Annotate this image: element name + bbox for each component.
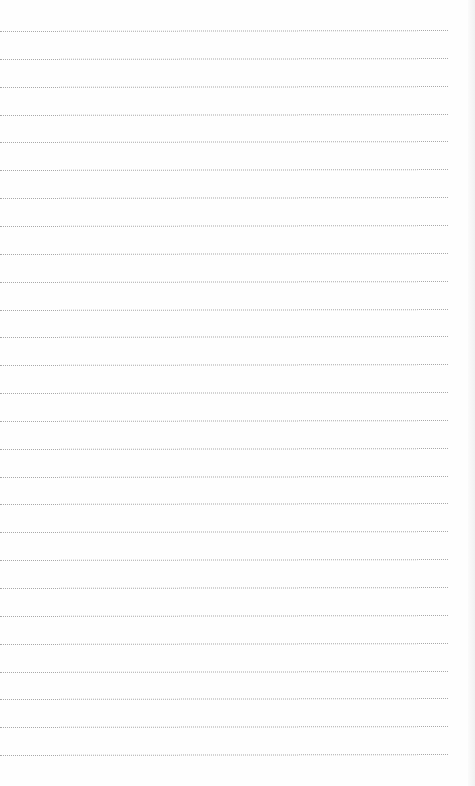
ruled-line — [0, 643, 448, 645]
page-edge-shadow — [468, 0, 475, 786]
ruled-line — [0, 531, 448, 533]
ruled-line — [0, 336, 448, 338]
ruled-line — [0, 698, 448, 700]
ruled-line — [0, 671, 448, 673]
ruled-line — [0, 86, 448, 88]
ruled-line — [0, 58, 448, 60]
ruled-line — [0, 114, 448, 116]
ruled-line — [0, 30, 448, 32]
ruled-line — [0, 225, 448, 227]
ruled-line — [0, 197, 448, 199]
ruled-line — [0, 253, 448, 255]
ruled-line — [0, 420, 448, 422]
ruled-line — [0, 364, 448, 366]
ruled-line — [0, 503, 448, 505]
ruled-line — [0, 309, 448, 311]
ruled-line — [0, 392, 448, 394]
ruled-line — [0, 448, 448, 450]
ruled-line — [0, 559, 448, 561]
ruled-line — [0, 141, 448, 143]
ruled-line — [0, 476, 448, 478]
ruled-line — [0, 281, 448, 283]
ruled-line — [0, 169, 448, 171]
notepad-page — [0, 0, 475, 786]
ruled-line — [0, 615, 448, 617]
ruled-line — [0, 726, 448, 728]
ruled-line — [0, 587, 448, 589]
ruled-lines — [0, 0, 475, 786]
ruled-line — [0, 754, 448, 756]
